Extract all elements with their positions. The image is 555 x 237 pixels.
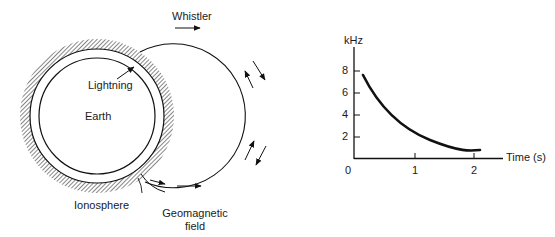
y-tick-6: 6 bbox=[342, 86, 348, 98]
arrow-right-lower-down bbox=[256, 146, 266, 165]
geomagnetic-label-line1: Geomagnetic bbox=[160, 207, 230, 220]
arrow-right-lower-up bbox=[245, 141, 254, 160]
earth-label: Earth bbox=[85, 110, 111, 122]
x-axis-label: Time (s) bbox=[506, 151, 546, 163]
y-tick-8: 8 bbox=[342, 64, 348, 76]
geomagnetic-field-label: Geomagnetic field bbox=[160, 207, 230, 233]
whistler-label: Whistler bbox=[172, 10, 212, 22]
y-tick-4: 4 bbox=[342, 108, 348, 120]
x-tick-2: 2 bbox=[471, 164, 477, 176]
origin-label: 0 bbox=[345, 164, 351, 176]
chart-axes bbox=[354, 47, 503, 159]
lightning-label: Lightning bbox=[88, 79, 133, 91]
x-tick-1: 1 bbox=[412, 164, 418, 176]
geomagnetic-label-line2: field bbox=[160, 220, 230, 233]
arrow-bottom-left bbox=[150, 180, 165, 184]
ionosphere-label: Ionosphere bbox=[74, 199, 129, 211]
arrow-right-upper-up bbox=[245, 71, 253, 88]
arrow-right-upper-down bbox=[253, 61, 265, 80]
duct-line-2 bbox=[138, 178, 142, 193]
y-tick-2: 2 bbox=[342, 130, 348, 142]
whistler-frequency-curve bbox=[363, 75, 480, 151]
y-axis-unit-label: kHz bbox=[344, 34, 363, 46]
